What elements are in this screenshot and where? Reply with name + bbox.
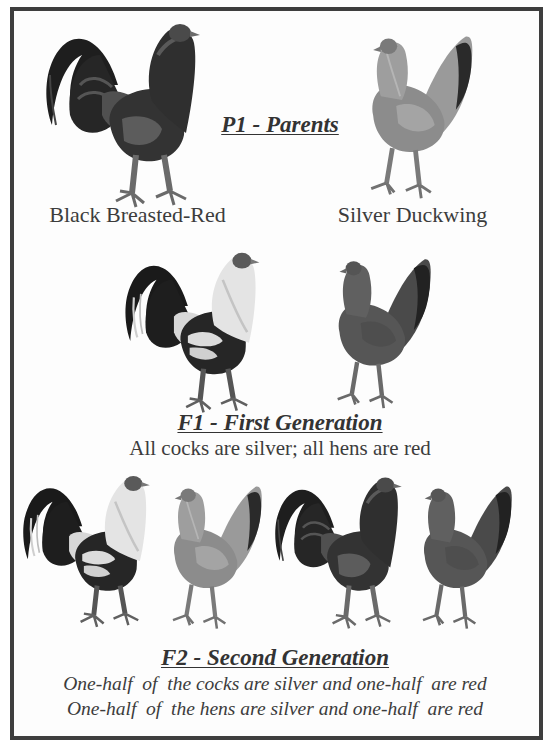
p1-hen-label: Silver Duckwing xyxy=(320,202,505,228)
f2-hen-silver xyxy=(155,480,267,632)
p1-hen-silver-duckwing xyxy=(352,28,477,203)
f2-cock-silver xyxy=(18,468,158,630)
f1-hen-red xyxy=(320,252,435,412)
f1-title: F1 - First Generation xyxy=(160,410,400,436)
f2-caption-hens: One-half of the hens are silver and one-… xyxy=(20,698,530,720)
p1-title: P1 - Parents xyxy=(205,112,355,138)
f1-cock-silver xyxy=(118,245,270,415)
f2-hen-red xyxy=(405,480,517,632)
f2-caption-cocks: One-half of the cocks are silver and one… xyxy=(20,673,530,695)
f1-caption: All cocks are silver; all hens are red xyxy=(90,436,470,461)
f2-title: F2 - Second Generation xyxy=(150,645,400,671)
p1-cock-black-breasted-red xyxy=(40,15,210,210)
p1-cock-label: Black Breasted-Red xyxy=(30,202,245,228)
f2-cock-red xyxy=(270,468,410,633)
